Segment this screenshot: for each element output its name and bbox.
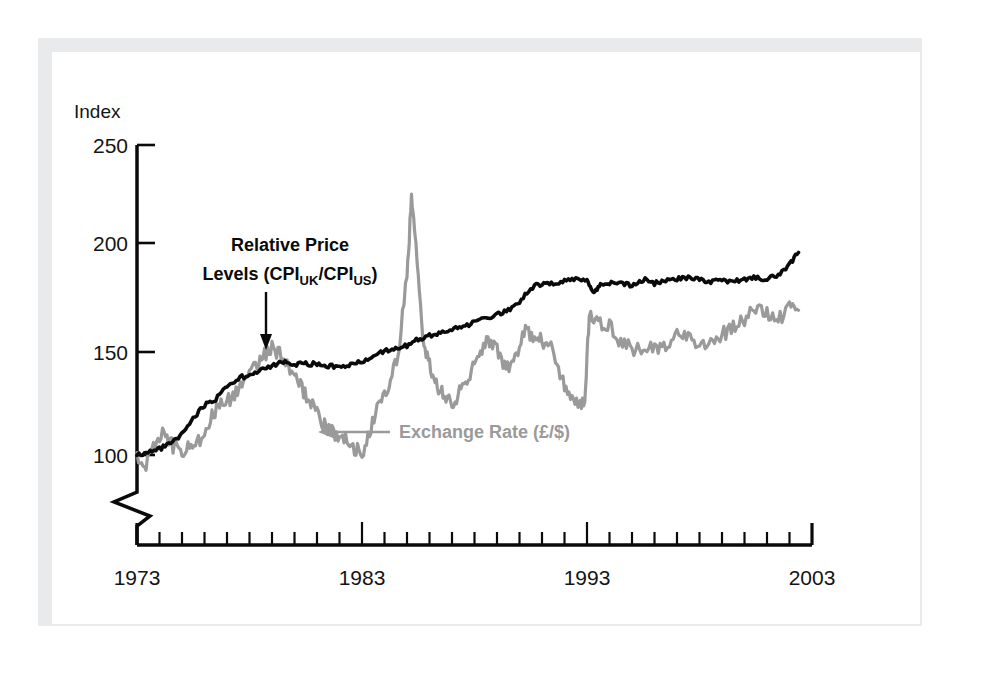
x-tick-marks (160, 522, 790, 545)
y-axis-break-zigzag (114, 468, 150, 545)
annotation-subscript-uk: UK (300, 273, 319, 288)
y-tick-label-100: 100 (93, 444, 128, 467)
y-tick-label-250: 250 (93, 134, 128, 157)
chart-canvas: Index 250 200 150 100 1973 1983 1993 200… (0, 0, 1001, 684)
relative-price-levels-annotation: Relative Price Levels (CPIUK/CPIUS) (203, 235, 378, 350)
y-axis-title: Index (74, 101, 121, 122)
exchange-rate-annotation: Exchange Rate (£/$) (318, 422, 570, 442)
annotation-subscript-us: US (353, 273, 371, 288)
relative-price-annotation-line2: Levels (CPIUK/CPIUS) (203, 264, 378, 288)
x-tick-label-1993: 1993 (564, 566, 611, 589)
annotation-levels-suffix: ) (371, 264, 377, 284)
annotation-levels-mid: /CPI (318, 264, 353, 284)
x-tick-labels: 1973 1983 1993 2003 (114, 566, 836, 589)
y-tick-marks (137, 145, 155, 455)
exchange-rate-annotation-label: Exchange Rate (£/$) (399, 422, 570, 442)
x-tick-label-1973: 1973 (114, 566, 161, 589)
figure-root: Index 250 200 150 100 1973 1983 1993 200… (0, 0, 1001, 684)
y-tick-label-200: 200 (93, 232, 128, 255)
x-tick-label-2003: 2003 (789, 566, 836, 589)
y-tick-labels: 250 200 150 100 (93, 134, 128, 467)
x-tick-label-1983: 1983 (339, 566, 386, 589)
relative-price-annotation-line1: Relative Price (231, 235, 349, 255)
annotation-levels-prefix: Levels (CPI (203, 264, 300, 284)
y-tick-label-150: 150 (93, 341, 128, 364)
